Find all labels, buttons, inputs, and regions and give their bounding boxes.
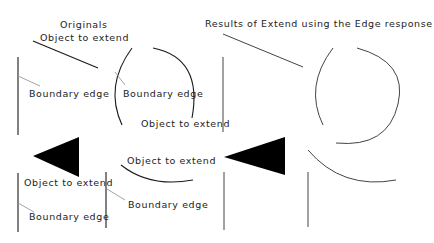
object-arc-lower-result [308,150,396,182]
leader-line [18,76,40,86]
solid-triangle-original [33,137,79,177]
label-object-to-extend-2: Object to extend [141,118,230,129]
object-arc-original [153,48,194,118]
boundary-arc-result [315,48,333,125]
object-arc-lower-original [121,165,193,182]
object-line-result [223,34,303,67]
extend-edge-diagram: Originals Object to extend Boundary edge… [0,0,434,243]
label-boundary-edge-2: Boundary edge [123,88,203,99]
leader-line [107,189,125,200]
results-title: Results of Extend using the Edge respons… [205,18,433,29]
boundary-arc-original [115,48,132,125]
label-boundary-edge-1: Boundary edge [29,88,109,99]
label-object-to-extend-4: Object to extend [127,155,216,166]
object-line-original [33,41,98,68]
object-arc-result [336,48,400,144]
label-boundary-edge-3: Boundary edge [29,211,109,222]
originals-title: Originals [60,19,108,30]
label-boundary-edge-4: Boundary edge [128,199,208,210]
label-object-to-extend-1: Object to extend [40,32,129,43]
label-object-to-extend-3: Object to extend [24,177,113,188]
solid-triangle-result [224,137,285,175]
